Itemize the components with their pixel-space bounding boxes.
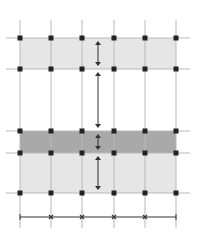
- grid-node: [80, 151, 85, 156]
- grid-node: [112, 151, 117, 156]
- grid-node: [174, 191, 179, 196]
- grid-node: [49, 129, 54, 134]
- grid-node: [174, 67, 179, 72]
- arrow-down-icon: [95, 124, 101, 128]
- grid-node: [80, 67, 85, 72]
- grid-node: [112, 191, 117, 196]
- grid-node: [143, 67, 148, 72]
- grid-node: [49, 151, 54, 156]
- grid-node: [174, 36, 179, 41]
- grid-node: [143, 151, 148, 156]
- grid-node: [18, 191, 23, 196]
- grid-node: [49, 191, 54, 196]
- grid-node: [112, 36, 117, 41]
- grid-node: [174, 151, 179, 156]
- grid-node: [174, 129, 179, 134]
- arrow-up-icon: [95, 72, 101, 76]
- grid-node: [112, 129, 117, 134]
- grid-node: [80, 36, 85, 41]
- grid-node: [112, 67, 117, 72]
- grid-node: [18, 36, 23, 41]
- grid-node: [143, 191, 148, 196]
- grid-node: [80, 129, 85, 134]
- horizontal-dimension-line: [20, 214, 176, 220]
- grid-node: [18, 151, 23, 156]
- grid-node: [80, 191, 85, 196]
- grid-diagram: [0, 0, 197, 238]
- grid-node: [18, 67, 23, 72]
- grid-node: [143, 36, 148, 41]
- grid-node: [143, 129, 148, 134]
- grid-node: [49, 67, 54, 72]
- grid-node: [18, 129, 23, 134]
- grid-node: [49, 36, 54, 41]
